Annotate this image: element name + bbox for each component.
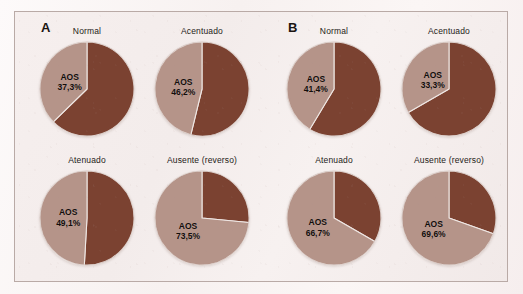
pie-wrap: AOS 73,5%: [153, 169, 251, 267]
pie-chart: [285, 40, 383, 138]
pie-wrap: AOS 69,6%: [400, 169, 498, 267]
chart-a-acentuado: Acentuado AOS 46,2%: [144, 26, 260, 157]
figure-frame: A Normal AOS 37,3% Acentuado AOS 46,2%: [14, 11, 508, 282]
pie-data-label: AOS 49,1%: [56, 207, 80, 228]
chart-b-normal: Normal AOS 41,4%: [276, 26, 392, 157]
panel-b: B Normal AOS 41,4% Acentuado AOS 33,3%: [262, 12, 509, 283]
pie-chart: [38, 169, 136, 267]
pie-wrap: AOS 46,2%: [153, 40, 251, 138]
chart-title: Normal: [29, 26, 145, 36]
pie-wrap: AOS 37,3%: [38, 40, 136, 138]
pie-chart: [153, 40, 251, 138]
pie-chart: [38, 40, 136, 138]
chart-b-acentuado: Acentuado AOS 33,3%: [391, 26, 507, 157]
chart-title: Acentuado: [144, 26, 260, 36]
pie-chart: [400, 169, 498, 267]
pie-chart: [153, 169, 251, 267]
panel-a: A Normal AOS 37,3% Acentuado AOS 46,2%: [15, 12, 262, 283]
pie-wrap: AOS 49,1%: [38, 169, 136, 267]
chart-title: Atenuado: [29, 155, 145, 165]
pie-data-label: AOS 69,6%: [422, 218, 446, 239]
chart-b-atenuado: Atenuado AOS 66,7%: [276, 155, 392, 286]
pie-wrap: AOS 33,3%: [400, 40, 498, 138]
pie-chart: [285, 169, 383, 267]
chart-a-ausente: Ausente (reverso) AOS 73,5%: [144, 155, 260, 286]
pie-chart: [400, 40, 498, 138]
pie-data-label: AOS 46,2%: [171, 76, 195, 97]
chart-title: Atenuado: [276, 155, 392, 165]
pie-data-label: AOS 73,5%: [176, 220, 200, 241]
pie-data-label: AOS 33,3%: [421, 69, 445, 90]
chart-title: Acentuado: [391, 26, 507, 36]
chart-b-ausente: Ausente (reverso) AOS 69,6%: [391, 155, 507, 286]
chart-title: Normal: [276, 26, 392, 36]
pie-data-label: AOS 41,4%: [304, 73, 328, 94]
chart-title: Ausente (reverso): [144, 155, 260, 165]
chart-a-atenuado: Atenuado AOS 49,1%: [29, 155, 145, 286]
chart-a-normal: Normal AOS 37,3%: [29, 26, 145, 157]
pie-data-label: AOS 66,7%: [306, 217, 330, 238]
pie-wrap: AOS 66,7%: [285, 169, 383, 267]
pie-data-label: AOS 37,3%: [58, 71, 82, 92]
chart-title: Ausente (reverso): [391, 155, 507, 165]
pie-wrap: AOS 41,4%: [285, 40, 383, 138]
